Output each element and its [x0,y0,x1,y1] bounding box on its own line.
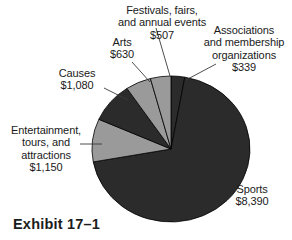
pie-chart-figure: Festivals, fairs, and annual events $507… [0,0,292,240]
slice-label-entertainment: Entertainment, tours, and attractions $1… [2,124,90,174]
slice-label-arts: Arts $630 [98,36,146,61]
slice-label-sports: Sports $8,390 [216,183,288,208]
leader-line-arts [132,62,150,82]
exhibit-caption: Exhibit 17–1 [13,216,100,232]
slice-label-associations: Associations and membership organization… [196,24,292,74]
slice-label-causes: Causes $1,080 [40,67,114,92]
